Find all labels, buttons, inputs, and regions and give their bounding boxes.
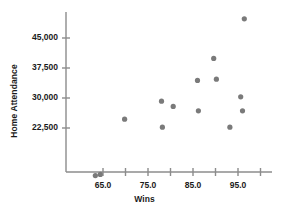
data-point bbox=[238, 94, 243, 99]
x-axis-tick-label: 95.0 bbox=[218, 180, 258, 190]
y-axis-tick-label: 22,500 bbox=[18, 122, 58, 132]
data-point bbox=[98, 172, 103, 177]
axes bbox=[62, 12, 272, 176]
y-axis-tick-label: 30,000 bbox=[18, 92, 58, 102]
data-point bbox=[227, 125, 232, 130]
data-point bbox=[171, 104, 176, 109]
x-axis-tick-label: 85.0 bbox=[173, 180, 213, 190]
y-axis-tick-label: 37,500 bbox=[18, 62, 58, 72]
data-point bbox=[93, 173, 98, 178]
scatter-chart: Home Attendance Wins 22,50030,00037,5004… bbox=[0, 0, 289, 213]
data-point bbox=[214, 77, 219, 82]
x-axis-tick-label: 65.0 bbox=[83, 180, 123, 190]
data-point bbox=[160, 125, 165, 130]
data-point bbox=[159, 99, 164, 104]
y-axis-tick-label: 45,000 bbox=[18, 32, 58, 42]
data-points bbox=[93, 16, 247, 178]
data-point bbox=[211, 56, 216, 61]
x-axis-title: Wins bbox=[0, 194, 289, 204]
x-axis-tick-label: 75.0 bbox=[128, 180, 168, 190]
data-point bbox=[196, 108, 201, 113]
data-point bbox=[242, 16, 247, 21]
data-point bbox=[240, 108, 245, 113]
data-point bbox=[122, 117, 127, 122]
data-point bbox=[195, 78, 200, 83]
